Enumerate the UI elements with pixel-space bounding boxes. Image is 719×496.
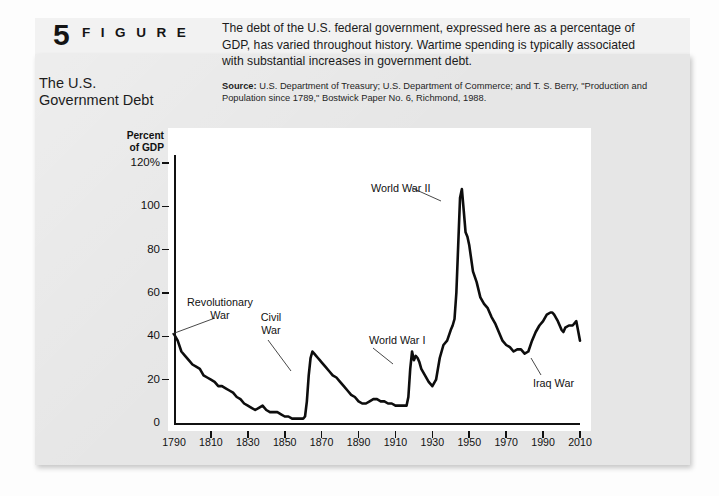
- y-axis-title: Percent of GDP: [98, 130, 164, 154]
- x-axis-tick-mark: [432, 431, 434, 438]
- x-axis-tick-mark: [505, 431, 507, 438]
- figure-source: Source: U.S. Department of Treasury; U.S…: [222, 80, 652, 105]
- x-axis-tick-label: 1790: [154, 436, 194, 448]
- y-axis-title-line1: Percent: [98, 130, 164, 142]
- y-axis-tick-label: 120%: [100, 156, 160, 168]
- y-axis-tick-mark: [162, 379, 169, 381]
- x-axis-tick-mark: [210, 431, 212, 438]
- figure-title: The U.S. Government Debt: [39, 75, 204, 109]
- x-axis-tick-mark: [579, 431, 581, 438]
- y-axis-tick-mark: [162, 206, 169, 208]
- debt-line-chart: [168, 128, 591, 431]
- source-label: Source:: [222, 81, 257, 91]
- annotation-civil-war-line1: Civil: [246, 311, 296, 324]
- figure-description: The debt of the U.S. federal government,…: [222, 20, 650, 70]
- y-axis-tick-mark: [162, 336, 169, 338]
- y-axis-tick-label: 60: [100, 286, 160, 298]
- y-axis-tick-mark: [162, 292, 169, 294]
- annotation-iraq-war: Iraq War: [533, 377, 574, 390]
- source-text: U.S. Department of Treasury; U.S. Depart…: [222, 81, 647, 103]
- x-axis-tick-mark: [358, 431, 360, 438]
- annotation-civil-war-line2: War: [246, 324, 296, 337]
- x-axis-tick-mark: [284, 431, 286, 438]
- y-axis-title-line2: of GDP: [98, 142, 164, 154]
- y-axis-line: [174, 155, 176, 425]
- annotation-world-war-ii: World War II: [371, 182, 430, 195]
- x-axis-tick-mark: [395, 431, 397, 438]
- annotation-revolutionary-war-line1: Revolutionary: [165, 296, 275, 309]
- y-axis-tick-mark: [162, 162, 169, 164]
- annotation-civil-war: Civil War: [246, 311, 296, 336]
- y-axis-tick-mark: [162, 249, 169, 251]
- y-axis-tick-label: 100: [100, 199, 160, 211]
- chart-plot-area: [168, 128, 591, 431]
- x-axis-line: [174, 423, 580, 425]
- y-axis-tick-label: 0: [100, 416, 160, 428]
- x-axis-tick-mark: [321, 431, 323, 438]
- figure-number: 5: [53, 18, 70, 52]
- x-axis-tick-mark: [247, 431, 249, 438]
- figure-word-label: F I G U R E: [82, 25, 189, 40]
- y-axis-tick-label: 80: [100, 243, 160, 255]
- y-axis-tick-label: 40: [100, 329, 160, 341]
- x-axis-tick-mark: [468, 431, 470, 438]
- figure-page: 5 F I G U R E The U.S. Government Debt T…: [0, 0, 719, 496]
- figure-title-line1: The U.S.: [39, 75, 96, 91]
- annotation-world-war-i: World War I: [369, 334, 425, 347]
- y-axis-tick-label: 20: [100, 373, 160, 385]
- x-axis-tick-mark: [542, 431, 544, 438]
- figure-title-line2: Government Debt: [39, 92, 204, 109]
